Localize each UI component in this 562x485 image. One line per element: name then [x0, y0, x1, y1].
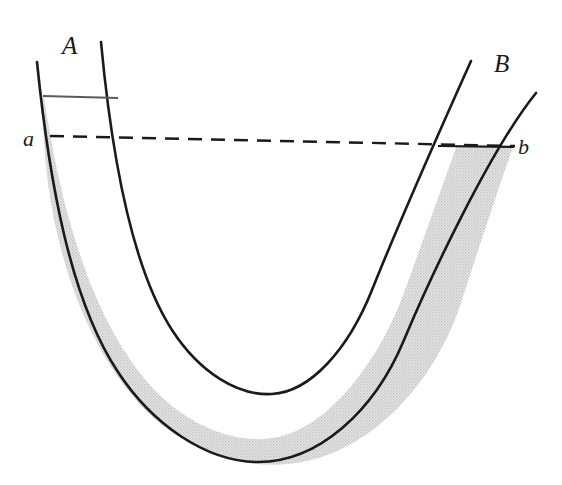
- label-level-point-a: a: [23, 128, 34, 150]
- label-tube-b-upper: B: [494, 51, 509, 76]
- level-dashed-line: [50, 136, 515, 146]
- label-tube-a-upper: A: [62, 33, 77, 58]
- label-level-point-b: b: [518, 136, 529, 158]
- figure-container: A B a b: [0, 0, 562, 485]
- utube-diagram: [0, 0, 562, 485]
- liquid-fill: [20, 97, 550, 485]
